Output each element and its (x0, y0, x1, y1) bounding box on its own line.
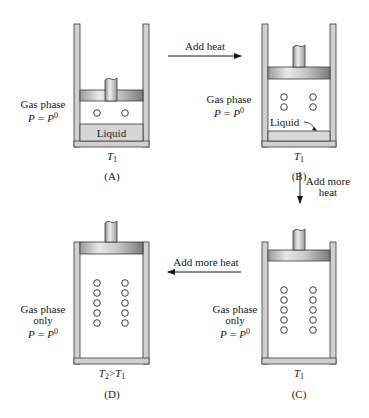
piston-rod (105, 221, 117, 242)
caption-d: (D) (92, 389, 132, 400)
phase-label-c: Gas phase only P = P0 (206, 304, 264, 340)
piston-rod (105, 78, 117, 101)
liquid-layer (268, 131, 330, 141)
piston (268, 67, 330, 79)
cylinder-d (74, 221, 149, 364)
pressure-label-d: P = P0 (14, 326, 72, 340)
arrow-label-add-more-heat-down: Add more heat (304, 176, 352, 198)
piston-rod (293, 45, 305, 67)
liquid-label-a: Liquid (80, 128, 143, 139)
piston (80, 242, 143, 254)
phase-label-a: Gas phase P = P0 (14, 99, 72, 124)
piston (268, 250, 330, 261)
temperature-label-b: T1 (279, 151, 319, 165)
pressure-label-c: P = P0 (206, 326, 264, 340)
cylinder-b (262, 24, 336, 147)
liquid-label-b: Liquid (270, 117, 308, 128)
temperature-label-d: T2>T1 (82, 368, 142, 382)
pressure-label-a: P = P0 (14, 110, 72, 124)
piston-rod (293, 229, 305, 250)
caption-c: (C) (279, 389, 319, 400)
caption-a: (A) (92, 171, 132, 182)
arrow-label-add-heat: Add heat (175, 41, 235, 52)
temperature-label-c: T1 (279, 368, 319, 382)
arrow-label-add-more-heat-left: Add more heat (166, 257, 246, 268)
temperature-label-a: T1 (92, 151, 132, 165)
phase-label-b: Gas phase P = P0 (200, 94, 258, 119)
phase-label-d: Gas phase only P = P0 (14, 304, 72, 340)
pressure-label-b: P = P0 (200, 105, 258, 119)
piston-cylinder-diagram (0, 0, 369, 418)
cylinder-c (262, 229, 336, 364)
